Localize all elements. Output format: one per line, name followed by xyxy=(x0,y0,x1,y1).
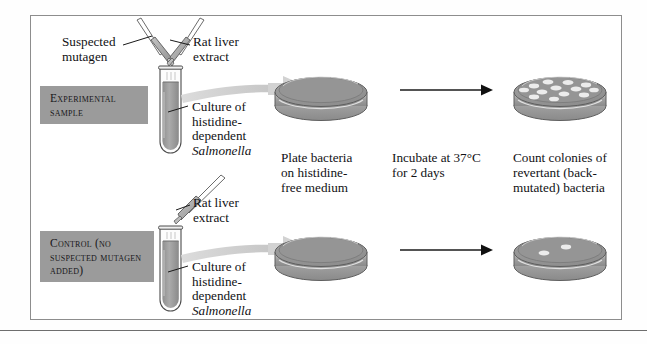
callout-culture-top: Culture of histidine- dependent Salmonel… xyxy=(192,100,272,158)
label-control: Control (no suspected mutagen added) xyxy=(40,231,154,282)
figure-root: Experimental sample Control (no suspecte… xyxy=(0,0,647,344)
culture-bottom-line-3: dependent xyxy=(192,289,272,304)
label-experimental-sample: Experimental sample xyxy=(40,86,148,124)
callout-rat-liver-extract-top: Rat liver extract xyxy=(193,35,265,64)
culture-top-line-3: dependent xyxy=(192,129,272,144)
culture-bottom-line-1: Culture of xyxy=(192,260,272,275)
figure-bottom-rule xyxy=(0,330,647,331)
culture-top-line-4: Salmonella xyxy=(192,144,272,159)
culture-top-line-1: Culture of xyxy=(192,100,272,115)
callout-rat-liver-extract-bottom: Rat liver extract xyxy=(193,196,265,225)
step-plate-bacteria: Plate bacteria on histidine- free medium xyxy=(281,150,391,196)
step-count-colonies: Count colonies of revertant (back- mutat… xyxy=(513,150,633,196)
step-incubate: Incubate at 37°C for 2 days xyxy=(392,150,512,180)
culture-bottom-line-4: Salmonella xyxy=(192,304,272,319)
callout-suspected-mutagen: Suspected mutagen xyxy=(62,35,134,64)
culture-bottom-line-2: histidine- xyxy=(192,275,272,290)
callout-culture-bottom: Culture of histidine- dependent Salmonel… xyxy=(192,260,272,318)
culture-top-line-2: histidine- xyxy=(192,115,272,130)
